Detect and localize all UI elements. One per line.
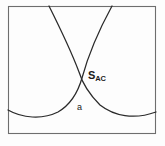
crossing-point-label-subscript: AC [95,74,105,83]
region-label: a [77,103,82,112]
figure-container: SAC a [0,0,165,146]
figure-background [0,0,165,146]
crossing-point-label: SAC [88,70,106,83]
figure-canvas [0,0,165,146]
